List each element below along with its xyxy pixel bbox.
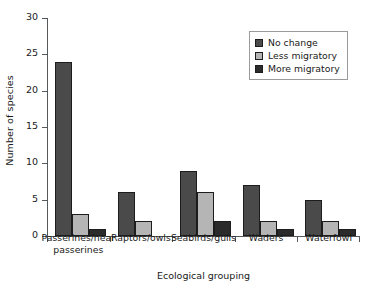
legend-label: More migratory	[268, 63, 340, 74]
bar	[305, 200, 322, 236]
y-axis-tick: 30	[42, 18, 47, 19]
bar-group	[55, 18, 106, 236]
y-axis-tick-label: 15	[26, 120, 38, 131]
y-axis-tick: 20	[42, 91, 47, 92]
y-axis-tick: 25	[42, 54, 47, 55]
y-axis-title-text: Number of species	[4, 75, 15, 166]
x-axis-category-label-line: Waterfowl	[287, 232, 370, 244]
y-axis-title: Number of species	[0, 0, 18, 240]
y-axis-tick: 15	[42, 127, 47, 128]
legend-item: No change	[255, 36, 340, 49]
bar	[180, 171, 197, 236]
legend-label: Less migratory	[268, 50, 337, 61]
y-axis-line	[47, 18, 48, 237]
bar-group	[118, 18, 169, 236]
legend-swatch	[255, 39, 263, 47]
bar	[118, 192, 135, 236]
legend-label: No change	[268, 37, 318, 48]
legend-swatch	[255, 65, 263, 73]
y-axis-tick: 10	[42, 163, 47, 164]
bar-chart-figure: Number of species 051015202530 Passerine…	[0, 0, 376, 294]
x-axis-title: Ecological grouping	[47, 270, 360, 281]
y-axis-tick-label: 10	[26, 156, 38, 167]
bar	[243, 185, 260, 236]
y-axis-tick-label: 5	[32, 193, 38, 204]
x-axis-category-label-line: passerines	[37, 244, 120, 256]
y-axis-tick-label: 30	[26, 11, 38, 22]
bar	[55, 62, 72, 236]
x-axis-category-label: Waterfowl	[287, 232, 370, 244]
legend-item: More migratory	[255, 62, 340, 75]
y-axis-tick-label: 20	[26, 84, 38, 95]
bar	[197, 192, 214, 236]
y-axis-tick: 5	[42, 200, 47, 201]
legend-swatch	[255, 52, 263, 60]
chart-legend: No changeLess migratoryMore migratory	[249, 31, 348, 80]
y-axis-tick-label: 25	[26, 47, 38, 58]
bar-group	[180, 18, 231, 236]
legend-item: Less migratory	[255, 49, 340, 62]
